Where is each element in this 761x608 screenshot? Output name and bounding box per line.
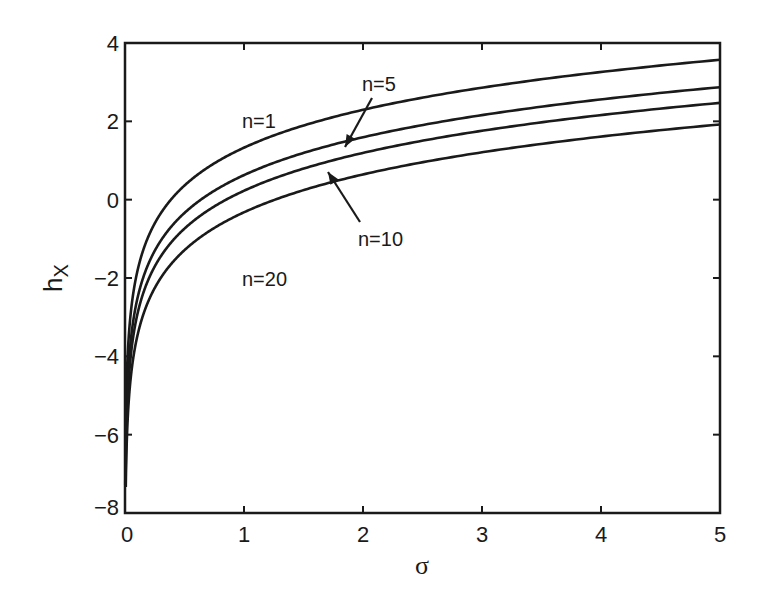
annotation-n-1: n=1 [242,110,276,132]
annotation-n-20: n=20 [242,268,287,290]
data-curves [125,60,720,486]
x-tick-label: 3 [476,522,488,547]
x-tick-label: 0 [121,522,133,547]
y-tick-label: −2 [94,266,119,291]
plot-frame [125,43,720,513]
curve-n-1 [125,60,720,486]
y-axis-label: hX [38,264,72,292]
y-tick-label: −6 [94,423,119,448]
y-tick-label: −4 [94,344,119,369]
y-tick-label: 4 [107,31,119,56]
x-tick-label: 2 [357,522,369,547]
y-tick-label: 2 [107,109,119,134]
y-tick-label: −8 [94,495,119,520]
annotation-n-10: n=10 [358,228,403,250]
y-tick-label: 0 [107,188,119,213]
x-tick-label: 1 [238,522,250,547]
curve-n-5 [125,87,720,485]
y-tick-labels: −8−6−4−2024 [94,31,119,520]
x-tick-label: 5 [714,522,726,547]
svg-text:hX: hX [38,264,72,292]
annotation-n-5: n=5 [362,73,396,95]
curve-n-10 [125,103,720,486]
curve-n-20 [125,124,720,485]
x-tick-label: 4 [595,522,607,547]
x-axis-label: σ [415,551,429,580]
line-chart: 012345 −8−6−4−2024 n=1n=5n=10n=20 σ hX [0,0,761,608]
axis-ticks [125,43,720,513]
x-tick-labels: 012345 [121,522,726,547]
